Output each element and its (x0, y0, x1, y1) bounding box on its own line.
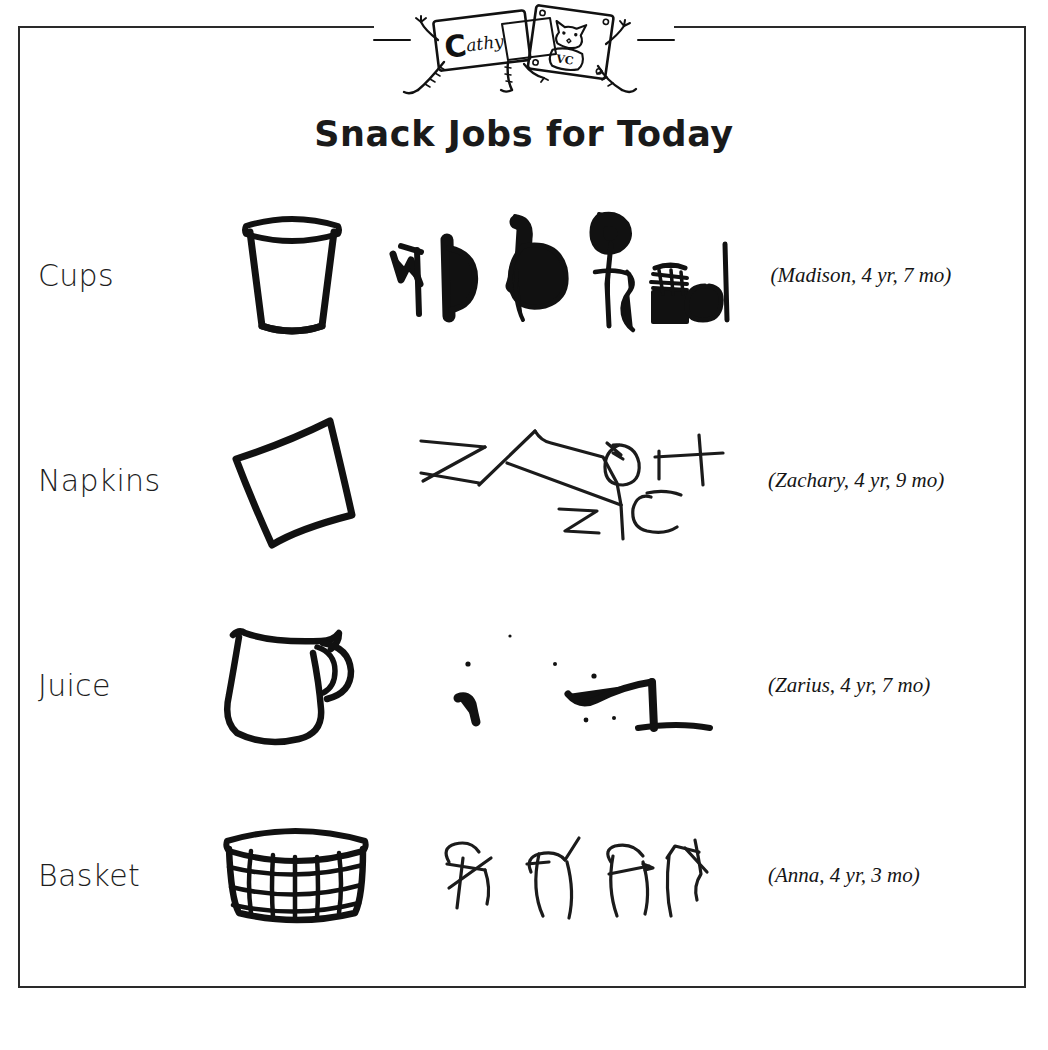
cup-icon (198, 200, 386, 350)
table-row: Basket (20, 780, 1026, 970)
basket-icon (200, 815, 390, 935)
handwriting-zarius (390, 628, 764, 743)
snack-jobs-chart: C athy VC Snack Jobs for Today (0, 0, 1048, 1050)
svg-text:C: C (442, 28, 468, 65)
row-label-juice: Juice (20, 668, 200, 703)
caption-madison: (Madison, 4 yr, 7 mo) (767, 263, 1026, 288)
caption-anna: (Anna, 4 yr, 3 mo) (764, 863, 1026, 888)
caption-zarius: (Zarius, 4 yr, 7 mo) (764, 673, 1026, 698)
cathy-logo: C athy VC (374, 0, 674, 104)
table-row: Napkins (20, 385, 1026, 575)
row-label-napkins: Napkins (20, 463, 200, 498)
svg-text:athy: athy (465, 31, 505, 55)
table-row: Cups (20, 180, 1026, 370)
row-label-cups: Cups (20, 258, 198, 293)
handwriting-zachary (390, 413, 764, 548)
svg-text:VC: VC (554, 52, 574, 67)
table-row: Juice (20, 590, 1026, 780)
napkin-icon (200, 403, 390, 558)
handwriting-anna (390, 828, 764, 923)
caption-zachary: (Zachary, 4 yr, 9 mo) (764, 468, 1026, 493)
handwriting-madison (387, 210, 767, 340)
page-title: Snack Jobs for Today (0, 114, 1048, 154)
row-label-basket: Basket (20, 858, 200, 893)
pitcher-icon (200, 613, 390, 758)
